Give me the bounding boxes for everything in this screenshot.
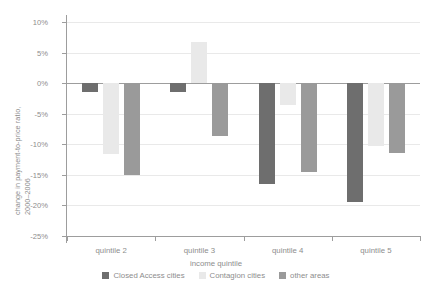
x-tick-mark xyxy=(420,236,421,241)
legend-item: Contagion cities xyxy=(199,271,265,280)
gridline xyxy=(67,205,420,206)
y-tick-mark xyxy=(62,175,67,176)
bar xyxy=(170,83,186,92)
x-tick-mark xyxy=(67,236,68,241)
y-axis-title: change in payment-to-price ratio, 2000–2… xyxy=(0,0,30,245)
gridline xyxy=(67,175,420,176)
bar xyxy=(347,83,363,202)
y-tick-label: -10% xyxy=(30,140,48,149)
bar xyxy=(212,83,228,136)
x-tick-mark xyxy=(332,236,333,241)
legend-swatch-icon xyxy=(102,272,109,279)
chart-legend: Closed Access citiesContagion citiesothe… xyxy=(0,271,432,280)
bar-chart: change in payment-to-price ratio, 2000–2… xyxy=(0,0,432,296)
bar xyxy=(280,83,296,104)
legend-item: Closed Access cities xyxy=(102,271,184,280)
y-axis-title-line1: change in payment-to-price ratio, xyxy=(13,107,22,215)
bar xyxy=(368,83,384,145)
x-tick-label: quintile 3 xyxy=(184,246,215,255)
y-tick-label: 5% xyxy=(37,48,48,57)
bar xyxy=(82,83,98,92)
y-axis-line xyxy=(66,15,67,243)
plot-area: 10%5%0%-5%-10%-15%-20%-25%quintile 2quin… xyxy=(67,22,420,236)
y-tick-mark xyxy=(62,144,67,145)
y-tick-label: -20% xyxy=(30,201,48,210)
bar xyxy=(259,83,275,184)
x-axis-title: income quintile xyxy=(0,259,432,268)
bar xyxy=(389,83,405,153)
y-tick-mark xyxy=(62,22,67,23)
legend-swatch-icon xyxy=(279,272,286,279)
gridline xyxy=(67,22,420,23)
bar xyxy=(301,83,317,172)
legend-swatch-icon xyxy=(199,272,206,279)
bar xyxy=(191,42,207,84)
y-tick-mark xyxy=(62,83,67,84)
x-tick-label: quintile 4 xyxy=(272,246,303,255)
y-tick-mark xyxy=(62,205,67,206)
legend-item: other areas xyxy=(279,271,329,280)
y-tick-label: -25% xyxy=(30,232,48,241)
y-tick-mark xyxy=(62,114,67,115)
legend-label: Contagion cities xyxy=(210,271,265,280)
x-tick-label: quintile 5 xyxy=(360,246,391,255)
legend-label: other areas xyxy=(290,271,329,280)
gridline xyxy=(67,53,420,54)
y-tick-label: -5% xyxy=(34,109,48,118)
x-tick-mark xyxy=(244,236,245,241)
x-tick-mark xyxy=(155,236,156,241)
bar xyxy=(103,83,119,154)
y-tick-label: 0% xyxy=(37,79,48,88)
y-tick-label: 10% xyxy=(33,18,48,27)
y-tick-label: -15% xyxy=(30,170,48,179)
x-tick-label: quintile 2 xyxy=(96,246,127,255)
bar xyxy=(124,83,140,175)
y-tick-mark xyxy=(62,53,67,54)
legend-label: Closed Access cities xyxy=(113,271,184,280)
